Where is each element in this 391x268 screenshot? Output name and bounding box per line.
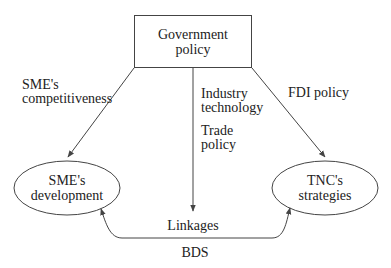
government-policy-node: Government policy — [134, 15, 252, 68]
edge-label-fdi-policy: FDI policy — [288, 86, 349, 100]
edge-label-sme-competitiveness: SME's competitiveness — [22, 78, 112, 106]
edge-label-line1: Industry — [201, 87, 263, 101]
linkages-label: Linkages — [163, 219, 223, 233]
government-policy-line2: policy — [176, 42, 211, 57]
edge-label-line1: SME's — [22, 78, 112, 92]
tnc-strategies-node: TNC's strategies — [272, 161, 378, 215]
sme-development-line1: SME's — [49, 173, 86, 188]
edge-label-bds: BDS — [175, 246, 215, 260]
government-policy-line1: Government — [158, 27, 228, 42]
tnc-strategies-line2: strategies — [299, 188, 352, 203]
edge-label-line2: technology — [201, 101, 263, 115]
edge-label-industry-technology: Industry technology — [201, 87, 263, 115]
edge-label-line4: policy — [201, 138, 236, 152]
sme-development-node: SME's development — [14, 161, 120, 215]
tnc-strategies-line1: TNC's — [307, 173, 343, 188]
edge-label-line2: competitiveness — [22, 92, 112, 106]
edge-label-line3: Trade — [201, 124, 236, 138]
sme-development-line2: development — [31, 188, 103, 203]
edge-label-trade-policy: Trade policy — [201, 124, 236, 152]
